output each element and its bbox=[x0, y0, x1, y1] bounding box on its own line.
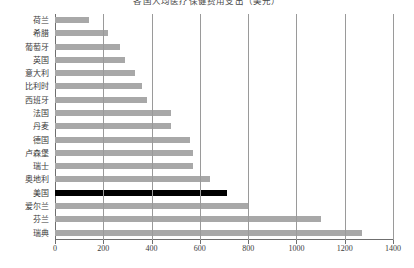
bar-row bbox=[55, 80, 393, 93]
bar-row bbox=[55, 160, 393, 173]
bar-意大利[interactable] bbox=[55, 70, 135, 76]
gridline bbox=[345, 14, 346, 240]
gridline bbox=[103, 14, 104, 240]
bar-row bbox=[55, 54, 393, 67]
category-label-荷兰: 荷兰 bbox=[0, 14, 53, 27]
bar-丹麦[interactable] bbox=[55, 123, 171, 129]
category-label-希腊: 希腊 bbox=[0, 27, 53, 40]
bar-row bbox=[55, 134, 393, 147]
category-label-意大利: 意大利 bbox=[0, 67, 53, 80]
category-label-葡萄牙: 葡萄牙 bbox=[0, 41, 53, 54]
x-axis-ticks: 0200400600800100012001400 bbox=[0, 240, 414, 260]
bar-希腊[interactable] bbox=[55, 30, 108, 36]
bar-row bbox=[55, 67, 393, 80]
bar-chart: 各国人均医疗保健费用支出（美元） 荷兰希腊葡萄牙英国意大利比利时西班牙法国丹麦德… bbox=[0, 0, 414, 268]
category-label-奥地利: 奥地利 bbox=[0, 173, 53, 186]
bar-瑞典[interactable] bbox=[55, 230, 362, 236]
bar-row bbox=[55, 41, 393, 54]
bar-英国[interactable] bbox=[55, 57, 125, 63]
bar-荷兰[interactable] bbox=[55, 17, 89, 23]
bar-row bbox=[55, 27, 393, 40]
gridline bbox=[152, 14, 153, 240]
chart-title: 各国人均医疗保健费用支出（美元） bbox=[0, 0, 414, 6]
category-label-比利时: 比利时 bbox=[0, 80, 53, 93]
bar-法国[interactable] bbox=[55, 110, 171, 116]
category-label-芬兰: 芬兰 bbox=[0, 213, 53, 226]
plot-area bbox=[55, 14, 393, 240]
bar-row bbox=[55, 213, 393, 226]
x-tick-label-1000: 1000 bbox=[288, 244, 304, 253]
x-tick-label-1400: 1400 bbox=[385, 244, 401, 253]
bar-row bbox=[55, 14, 393, 27]
bar-row bbox=[55, 173, 393, 186]
bar-德国[interactable] bbox=[55, 137, 190, 143]
x-tick-label-800: 800 bbox=[242, 244, 254, 253]
bar-row bbox=[55, 94, 393, 107]
category-label-德国: 德国 bbox=[0, 134, 53, 147]
category-label-英国: 英国 bbox=[0, 54, 53, 67]
bar-芬兰[interactable] bbox=[55, 216, 321, 222]
x-tick-label-1200: 1200 bbox=[337, 244, 353, 253]
bar-比利时[interactable] bbox=[55, 83, 142, 89]
bar-葡萄牙[interactable] bbox=[55, 44, 120, 50]
bar-row bbox=[55, 120, 393, 133]
gridline bbox=[248, 14, 249, 240]
bar-row bbox=[55, 187, 393, 200]
bar-西班牙[interactable] bbox=[55, 97, 147, 103]
bar-row bbox=[55, 107, 393, 120]
bar-row bbox=[55, 227, 393, 240]
category-label-爱尔兰: 爱尔兰 bbox=[0, 200, 53, 213]
x-tick-label-200: 200 bbox=[97, 244, 109, 253]
x-tick-label-0: 0 bbox=[53, 244, 57, 253]
bar-美国[interactable] bbox=[55, 190, 227, 196]
category-label-法国: 法国 bbox=[0, 107, 53, 120]
bar-卢森堡[interactable] bbox=[55, 150, 193, 156]
category-axis-labels: 荷兰希腊葡萄牙英国意大利比利时西班牙法国丹麦德国卢森堡瑞士奥地利美国爱尔兰芬兰瑞… bbox=[0, 14, 53, 240]
category-label-美国: 美国 bbox=[0, 187, 53, 200]
bar-奥地利[interactable] bbox=[55, 176, 210, 182]
gridline bbox=[200, 14, 201, 240]
category-label-卢森堡: 卢森堡 bbox=[0, 147, 53, 160]
category-label-瑞典: 瑞典 bbox=[0, 227, 53, 240]
bar-瑞士[interactable] bbox=[55, 163, 193, 169]
bars-container bbox=[55, 14, 393, 240]
x-tick-label-600: 600 bbox=[194, 244, 206, 253]
category-label-瑞士: 瑞士 bbox=[0, 160, 53, 173]
x-tick-label-400: 400 bbox=[146, 244, 158, 253]
gridline bbox=[296, 14, 297, 240]
gridline bbox=[393, 14, 394, 240]
category-label-西班牙: 西班牙 bbox=[0, 94, 53, 107]
bar-row bbox=[55, 147, 393, 160]
bar-row bbox=[55, 200, 393, 213]
category-label-丹麦: 丹麦 bbox=[0, 120, 53, 133]
